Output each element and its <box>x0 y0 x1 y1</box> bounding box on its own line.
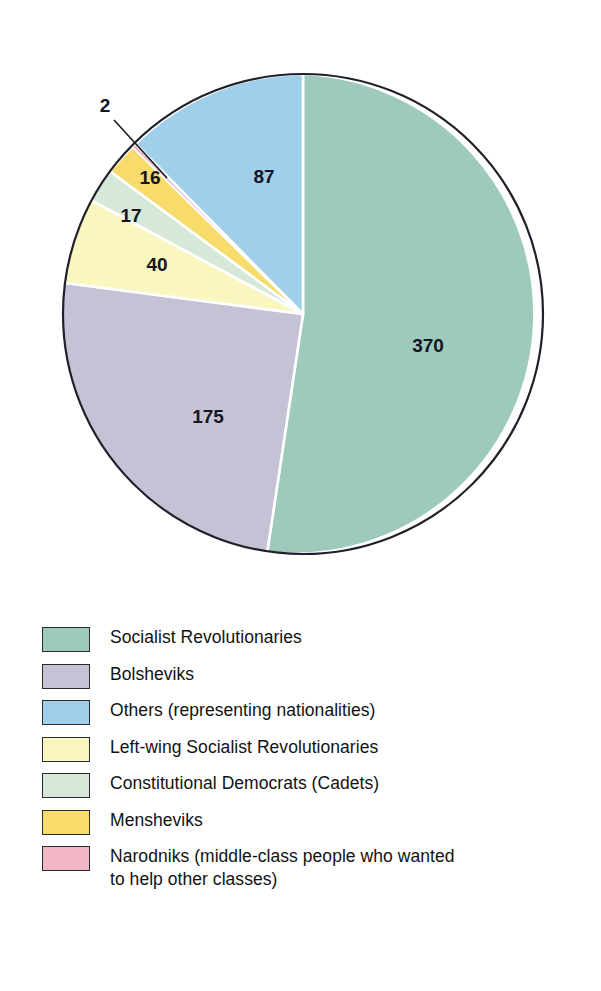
legend-item-constitutional-democrats[interactable]: Constitutional Democrats (Cadets) <box>42 772 572 798</box>
pie-chart-area: 370 175 87 40 17 16 2 <box>0 0 601 600</box>
legend-label-mensheviks: Mensheviks <box>110 809 203 832</box>
legend-label-constitutional-democrats: Constitutional Democrats (Cadets) <box>110 772 379 795</box>
pie-label-socialist-revolutionaries: 370 <box>412 335 444 356</box>
legend-label-others: Others (representing nationalities) <box>110 699 375 722</box>
legend: Socialist Revolutionaries Bolsheviks Oth… <box>42 626 572 901</box>
legend-swatch-others <box>42 700 90 725</box>
legend-label-left-wing-socialist-revolutionaries: Left-wing Socialist Revolutionaries <box>110 736 378 759</box>
legend-swatch-constitutional-democrats <box>42 773 90 798</box>
legend-swatch-narodniks <box>42 846 90 871</box>
legend-label-narodniks: Narodniks (middle-class people who wante… <box>110 845 454 891</box>
pie-label-others: 87 <box>253 166 274 187</box>
pie-label-left-wing-socialist-revolutionaries: 40 <box>146 254 167 275</box>
legend-item-left-wing-socialist-revolutionaries[interactable]: Left-wing Socialist Revolutionaries <box>42 736 572 762</box>
pie-label-bolsheviks: 175 <box>192 406 224 427</box>
pie-chart-svg: 370 175 87 40 17 16 2 <box>0 0 601 600</box>
legend-item-narodniks[interactable]: Narodniks (middle-class people who wante… <box>42 845 572 891</box>
legend-item-bolsheviks[interactable]: Bolsheviks <box>42 663 572 689</box>
pie-chart-figure: 370 175 87 40 17 16 2 Socialist Revoluti… <box>0 0 601 991</box>
legend-item-mensheviks[interactable]: Mensheviks <box>42 809 572 835</box>
legend-swatch-mensheviks <box>42 810 90 835</box>
legend-item-socialist-revolutionaries[interactable]: Socialist Revolutionaries <box>42 626 572 652</box>
legend-label-bolsheviks: Bolsheviks <box>110 663 194 686</box>
legend-swatch-bolsheviks <box>42 664 90 689</box>
pie-label-narodniks: 2 <box>100 95 111 116</box>
legend-swatch-socialist-revolutionaries <box>42 627 90 652</box>
pie-label-constitutional-democrats: 17 <box>120 205 141 226</box>
legend-swatch-left-wing-socialist-revolutionaries <box>42 737 90 762</box>
pie-slice-socialist-revolutionaries[interactable] <box>267 74 534 554</box>
pie-label-mensheviks: 16 <box>139 167 160 188</box>
pie-slice-bolsheviks[interactable] <box>61 283 303 553</box>
legend-item-others[interactable]: Others (representing nationalities) <box>42 699 572 725</box>
legend-label-socialist-revolutionaries: Socialist Revolutionaries <box>110 626 302 649</box>
